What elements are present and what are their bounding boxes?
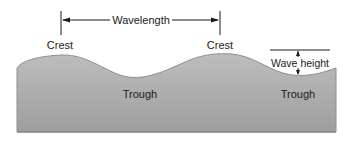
trough-left-label: Trough — [123, 88, 157, 100]
wavelength-right-arrowhead-icon — [211, 18, 219, 23]
crest-left-label: Crest — [47, 39, 73, 51]
wave-graphic — [0, 0, 350, 142]
wave-diagram: Wavelength Crest Crest Trough Trough Wav… — [0, 0, 350, 142]
wave-height-down-arrowhead-icon — [296, 70, 300, 75]
trough-right-label: Trough — [281, 88, 315, 100]
wavelength-label: Wavelength — [111, 14, 171, 26]
crest-right-label: Crest — [207, 39, 233, 51]
wavelength-left-arrowhead-icon — [62, 18, 70, 23]
wave-height-label: Wave height — [271, 57, 329, 69]
wave-height-up-arrowhead-icon — [296, 51, 300, 56]
